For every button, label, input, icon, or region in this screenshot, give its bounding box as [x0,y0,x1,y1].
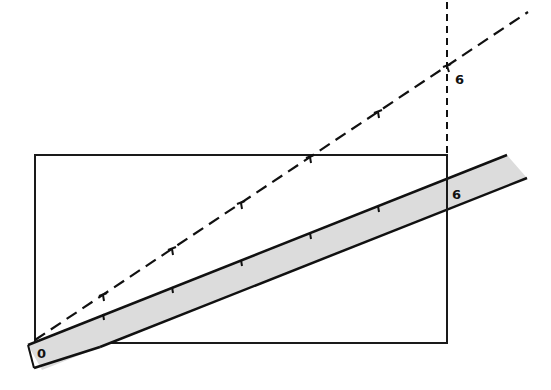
ruler-top-edge [28,155,507,345]
ruler-zero-label: 0 [37,346,46,361]
projection-six-label: 6 [455,72,464,87]
diagram-canvas: 0 6 6 [0,0,551,390]
ruler-six-label: 6 [452,187,461,202]
diagram-svg: 0 6 6 [0,0,551,390]
ruler-bottom-edge [100,178,527,347]
rectangle [35,155,447,343]
